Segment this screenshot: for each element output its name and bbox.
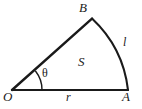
sector-figure: O A B r l S θ xyxy=(0,0,142,109)
label-area-s: S xyxy=(78,55,85,68)
label-arc-length-l: l xyxy=(123,36,126,48)
arc-ba-path xyxy=(92,19,128,90)
sector-drawing xyxy=(0,0,142,109)
label-origin-o: O xyxy=(3,90,12,103)
label-point-b: B xyxy=(79,1,87,14)
label-radius-r: r xyxy=(66,91,71,103)
label-point-a: A xyxy=(122,90,130,103)
label-angle-theta: θ xyxy=(42,67,48,79)
